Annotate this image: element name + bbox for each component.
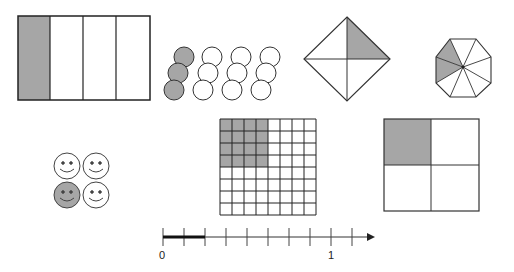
circle [222, 80, 242, 100]
circle-set-figure [158, 44, 288, 106]
octagon-figure [430, 34, 496, 100]
circle-set [158, 44, 288, 106]
smiley-face-shaded-icon [54, 182, 80, 208]
smiley-faces [53, 152, 113, 212]
label-zero: 0 [159, 249, 165, 261]
grid-8x8 [219, 118, 317, 216]
smiley-face-icon [54, 153, 80, 179]
diamond-figure [302, 16, 392, 102]
octagon [430, 34, 496, 100]
shaded-quadrant [384, 119, 431, 165]
smiley-face-icon [83, 182, 109, 208]
rectangle-strips-figure [17, 15, 151, 101]
number-line: 0 1 [155, 222, 387, 266]
arrow-right-icon [367, 233, 375, 241]
rectangle-strips [17, 15, 151, 101]
diamond [302, 16, 392, 102]
number-line-figure: 0 1 [155, 222, 387, 266]
quad-square-figure [383, 118, 481, 212]
smiley-face-icon [83, 153, 109, 179]
grid-figure [219, 118, 317, 216]
circle [251, 80, 271, 100]
smiley-faces-figure [53, 152, 113, 212]
shaded-strip [18, 16, 50, 100]
quad-square [383, 118, 481, 212]
label-one: 1 [328, 249, 334, 261]
circle-shaded [164, 80, 184, 100]
circle [193, 80, 213, 100]
